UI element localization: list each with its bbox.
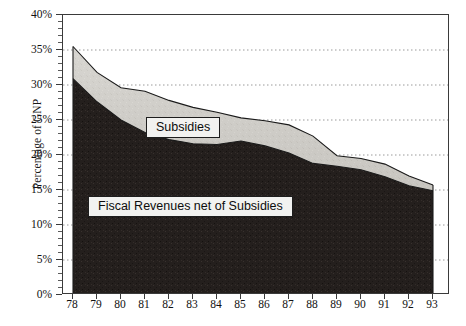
x-tick-mark [96,294,97,299]
y-tick-label: 10% [0,218,52,230]
x-tick-mark [120,294,121,299]
x-tick-label: 78 [59,298,85,310]
x-tick-mark [216,294,217,299]
x-tick-mark [288,294,289,299]
x-tick-mark [336,294,337,299]
x-tick-label: 80 [107,298,133,310]
y-tick-label: 5% [0,253,52,265]
x-tick-mark [264,294,265,299]
x-tick-label: 79 [83,298,109,310]
series-layer [73,47,433,295]
x-tick-mark [72,294,73,299]
x-tick-label: 84 [203,298,229,310]
x-tick-mark [144,294,145,299]
x-tick-label: 91 [371,298,397,310]
x-tick-mark [168,294,169,299]
x-tick-label: 85 [227,298,253,310]
x-tick-label: 86 [251,298,277,310]
y-tick-label: 35% [0,43,52,55]
x-tick-label: 88 [299,298,325,310]
x-tick-mark [432,294,433,299]
plot-area [62,14,449,294]
series-label-subsidies: Subsidies [146,117,220,138]
x-tick-label: 82 [155,298,181,310]
y-axis-ticks: 0%5%10%15%20%25%30%35%40% [0,0,58,326]
x-tick-mark [312,294,313,299]
y-tick-label: 25% [0,113,52,125]
x-tick-label: 83 [179,298,205,310]
series-label-fiscal-revenues: Fiscal Revenues net of Subsidies [88,196,293,217]
y-tick-mark [56,294,62,295]
x-tick-label: 81 [131,298,157,310]
x-tick-mark [384,294,385,299]
x-tick-mark [360,294,361,299]
x-tick-label: 90 [347,298,373,310]
x-tick-mark [240,294,241,299]
x-tick-mark [408,294,409,299]
y-tick-label: 20% [0,148,52,160]
y-tick-label: 15% [0,183,52,195]
y-tick-label: 40% [0,8,52,20]
x-tick-label: 92 [395,298,421,310]
y-tick-label: 0% [0,288,52,300]
x-tick-mark [192,294,193,299]
x-tick-label: 87 [275,298,301,310]
x-tick-label: 89 [323,298,349,310]
y-tick-label: 30% [0,78,52,90]
plot-svg [63,15,449,294]
x-tick-label: 93 [419,298,445,310]
stacked-area-chart: Percentage of GNP 0%5%10%15%20%25%30%35%… [0,0,466,326]
